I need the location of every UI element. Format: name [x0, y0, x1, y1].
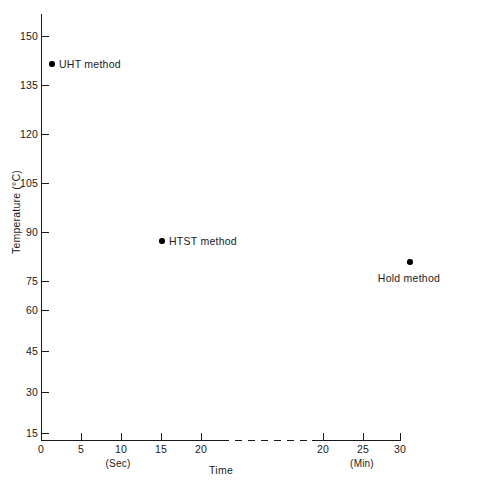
y-tick-mark [42, 281, 49, 282]
data-point-hold [407, 259, 412, 264]
y-tick-label: 120 [4, 128, 38, 140]
data-point-uht [49, 61, 54, 66]
y-tick-label: 15 [4, 427, 38, 439]
x-tick-mark-sec [41, 433, 42, 440]
data-point-label-hold: Hold method [378, 272, 440, 284]
x-tick-mark-min [400, 433, 401, 440]
x-tick-label-sec: 0 [26, 443, 56, 455]
x-tick-mark-sec [201, 433, 202, 440]
x-tick-mark-min [363, 433, 364, 440]
y-tick-label: 135 [4, 79, 38, 91]
x-tick-mark-sec [81, 433, 82, 440]
y-axis-title: Temperature (°C) [10, 152, 22, 272]
data-point-label-htst: HTST method [169, 235, 237, 247]
data-point-label-uht: UHT method [59, 58, 121, 70]
x-axis-break-dashed [222, 440, 312, 441]
x-tick-label-sec: 5 [66, 443, 96, 455]
data-point-htst [159, 238, 164, 243]
x-axis-title: Time [186, 464, 256, 476]
y-tick-mark [42, 85, 49, 86]
x-tick-mark-sec [121, 433, 122, 440]
y-tick-mark [42, 310, 49, 311]
x-axis-line-seconds [41, 440, 222, 441]
y-tick-label: 60 [4, 304, 38, 316]
y-tick-mark [42, 183, 49, 184]
x-tick-label-min: 20 [308, 443, 338, 455]
y-tick-label: 45 [4, 345, 38, 357]
y-axis-line [41, 14, 42, 441]
x-axis-unit-seconds: (Sec) [88, 458, 148, 469]
y-tick-label: 75 [4, 275, 38, 287]
x-tick-label-min: 25 [348, 443, 378, 455]
y-tick-mark [42, 134, 49, 135]
y-tick-mark [42, 433, 49, 434]
x-tick-label-sec: 20 [186, 443, 216, 455]
y-tick-mark [42, 351, 49, 352]
y-tick-mark [42, 392, 49, 393]
x-tick-mark-min [323, 433, 324, 440]
y-tick-mark [42, 36, 49, 37]
scatter-chart: 150 135 120 105 90 75 60 45 30 15 0 5 10… [0, 0, 478, 485]
x-axis-unit-minutes: (Min) [332, 458, 392, 469]
y-tick-mark [42, 232, 49, 233]
y-tick-label: 30 [4, 386, 38, 398]
x-axis-line-minutes [312, 440, 401, 441]
x-tick-label-sec: 15 [146, 443, 176, 455]
x-tick-label-min: 30 [385, 443, 415, 455]
y-tick-label: 150 [4, 30, 38, 42]
x-tick-mark-sec [161, 433, 162, 440]
x-tick-label-sec: 10 [106, 443, 136, 455]
